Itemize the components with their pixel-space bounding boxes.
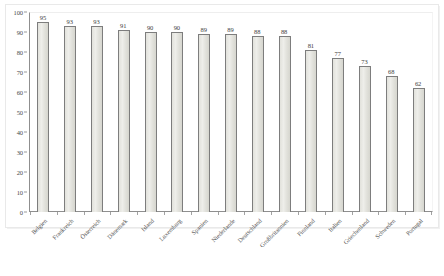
- x-axis-label-cell: Finnland: [298, 216, 325, 276]
- x-axis-label-cell: Griechenland: [352, 216, 379, 276]
- x-axis-category-label: Belgien: [30, 217, 49, 236]
- bar-group: 68: [378, 12, 405, 212]
- bar: [279, 36, 291, 212]
- x-axis-label-cell: Niederlande: [218, 216, 245, 276]
- bar-group: 81: [298, 12, 325, 212]
- x-axis-category-label: Portugal: [404, 217, 424, 237]
- x-axis-category-label: Finnland: [296, 217, 317, 238]
- bar: [386, 76, 398, 212]
- bar: [413, 88, 425, 212]
- y-axis-tickmark: [24, 152, 27, 153]
- x-axis-label-cell: Portugal: [405, 216, 432, 276]
- y-axis-tickmark: [24, 32, 27, 33]
- y-axis-tickmark: [24, 212, 27, 213]
- bar-group: 77: [325, 12, 352, 212]
- y-axis: 0102030405060708090100: [0, 12, 27, 212]
- y-axis-tick-label: 90: [17, 29, 23, 36]
- bar-group: 62: [405, 12, 432, 212]
- y-axis-tick-label: 10: [17, 189, 23, 196]
- x-axis-label-cell: Deutschland: [244, 216, 271, 276]
- y-axis-tick-label: 40: [17, 129, 23, 136]
- y-axis-tickmark: [24, 92, 27, 93]
- x-axis-label-cell: Dänemark: [110, 216, 137, 276]
- bar-value-label: 77: [334, 50, 340, 57]
- bar: [225, 34, 237, 212]
- bar-group: 93: [57, 12, 84, 212]
- bar-group: 73: [352, 12, 379, 212]
- y-axis-tickmark: [24, 112, 27, 113]
- bar-value-label: 88: [281, 28, 287, 35]
- bar-group: 89: [218, 12, 245, 212]
- bar-value-label: 95: [40, 14, 46, 21]
- bar-value-label: 73: [361, 58, 367, 65]
- bar-group: 90: [137, 12, 164, 212]
- x-axis-label-cell: Belgien: [30, 216, 57, 276]
- bar-value-label: 88: [254, 28, 260, 35]
- y-axis-tick-label: 0: [20, 209, 23, 216]
- bar-chart-figure: 0102030405060708090100 95939391909089898…: [0, 0, 444, 276]
- bar-value-label: 93: [93, 18, 99, 25]
- bar-group: 89: [191, 12, 218, 212]
- y-axis-tick-label: 20: [17, 169, 23, 176]
- x-axis-label-cell: Frankreich: [57, 216, 84, 276]
- y-axis-tickmark: [24, 72, 27, 73]
- x-axis-labels: BelgienFrankreichÖsterreichDänemarkIslan…: [30, 216, 432, 276]
- x-axis-category-label: Island: [140, 217, 156, 233]
- x-axis-category-label: Italien: [327, 217, 343, 233]
- bar-value-label: 90: [174, 24, 180, 31]
- x-axis-label-cell: Großbritannien: [271, 216, 298, 276]
- x-axis-label-cell: Österreich: [84, 216, 111, 276]
- bar: [359, 66, 371, 212]
- x-axis-label-cell: Schweden: [378, 216, 405, 276]
- bar-group: 88: [271, 12, 298, 212]
- bar-series: 959393919090898988888177736862: [30, 12, 432, 212]
- y-axis-tick-label: 70: [17, 69, 23, 76]
- y-axis-tick-label: 80: [17, 49, 23, 56]
- bar: [145, 32, 157, 212]
- y-axis-tick-label: 50: [17, 109, 23, 116]
- x-axis-label-cell: Italien: [325, 216, 352, 276]
- x-axis-label-cell: Island: [137, 216, 164, 276]
- bar: [37, 22, 49, 212]
- y-axis-tickmark: [24, 52, 27, 53]
- y-axis-tickmark: [24, 192, 27, 193]
- bar: [64, 26, 76, 212]
- y-axis-tick-label: 60: [17, 89, 23, 96]
- bar: [332, 58, 344, 212]
- y-axis-tickmark: [24, 12, 27, 13]
- x-axis-label-cell: Spanien: [191, 216, 218, 276]
- bar-value-label: 81: [308, 42, 314, 49]
- bar-group: 88: [244, 12, 271, 212]
- bar-value-label: 68: [388, 68, 394, 75]
- y-axis-tickmark: [24, 132, 27, 133]
- bar-value-label: 89: [201, 26, 207, 33]
- bar: [305, 50, 317, 212]
- bar-value-label: 91: [120, 22, 126, 29]
- bar-group: 95: [30, 12, 57, 212]
- bar: [118, 30, 130, 212]
- y-axis-tick-label: 30: [17, 149, 23, 156]
- bar-value-label: 62: [415, 80, 421, 87]
- y-axis-tickmark: [24, 172, 27, 173]
- bar: [198, 34, 210, 212]
- x-axis-label-cell: Luxemburg: [164, 216, 191, 276]
- bar-group: 93: [84, 12, 111, 212]
- bar-group: 90: [164, 12, 191, 212]
- bar: [171, 32, 183, 212]
- bar-value-label: 89: [227, 26, 233, 33]
- bar-group: 91: [110, 12, 137, 212]
- bar: [252, 36, 264, 212]
- x-axis-category-label: Spanien: [190, 217, 209, 236]
- bar-value-label: 93: [67, 18, 73, 25]
- bar-value-label: 90: [147, 24, 153, 31]
- y-axis-tick-label: 100: [14, 9, 23, 16]
- bar: [91, 26, 103, 212]
